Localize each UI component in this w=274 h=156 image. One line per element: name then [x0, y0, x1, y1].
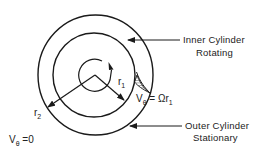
- v-inner-rhs: = Ωr: [147, 93, 169, 104]
- v-outer-subscript: θ: [16, 140, 20, 147]
- outer-cylinder-state-label: Stationary: [193, 133, 238, 143]
- v-inner-subscript: θ: [143, 99, 147, 106]
- v-outer-base: V: [9, 134, 16, 145]
- v-outer-rhs: =0: [20, 134, 34, 145]
- r1-subscript: 1: [121, 82, 125, 89]
- inner-cylinder-state-label: Rotating: [196, 48, 233, 58]
- inner-velocity-equation: Vθ = Ωr1: [136, 94, 173, 104]
- rotation-arrowhead-icon: [109, 62, 114, 70]
- r2-label: r2: [34, 108, 41, 118]
- v-inner-base: V: [136, 93, 143, 104]
- inner-cylinder-label: Inner Cylinder: [183, 35, 245, 45]
- r2-radius-line: [48, 75, 95, 107]
- outer-velocity-equation: Vθ =0: [9, 135, 34, 145]
- v-inner-rhs-subscript: 1: [169, 99, 173, 106]
- r2-subscript: 2: [37, 113, 41, 120]
- r1-label: r1: [118, 77, 125, 87]
- outer-cylinder-label: Outer Cylinder: [185, 121, 249, 131]
